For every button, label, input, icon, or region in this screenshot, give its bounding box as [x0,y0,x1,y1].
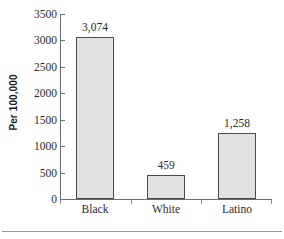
bar [76,37,114,199]
bar-value-label: 3,074 [82,21,108,33]
y-axis-tick-label: 3000 [34,34,57,46]
bottom-divider-rule [2,231,282,232]
bar [218,133,256,199]
x-axis-category-labels: BlackWhiteLatino [60,203,272,221]
x-axis-category-label: Latino [222,203,252,215]
y-axis-tick-mark [61,120,65,121]
y-axis-tick-mark [61,14,65,15]
x-axis-category-label: White [152,203,180,215]
y-axis-tick-mark [61,173,65,174]
y-axis-tick-label: 2500 [34,61,57,73]
bar [147,175,185,199]
y-axis-tick-label: 2000 [34,87,57,99]
x-axis-line [60,199,272,200]
y-axis-tick-mark [61,67,65,68]
plot-area: 3,0744591,258 [60,14,272,200]
y-axis-tick-mark [61,93,65,94]
x-axis-category-label: Black [82,203,109,215]
y-axis-title-label: Per 100,000 [8,74,19,130]
y-axis-tick-label: 3500 [34,8,57,20]
y-axis-tick-label: 500 [40,167,57,179]
bar-chart-figure: Per 100,000 0500100015002000250030003500… [0,0,284,239]
bar-value-label: 1,258 [224,117,250,129]
y-axis-title: Per 100,000 [0,0,26,205]
y-axis-tick-label: 0 [51,193,57,205]
y-axis-tick-label: 1500 [34,114,57,126]
y-axis-tick-labels: 0500100015002000250030003500 [26,8,59,200]
y-axis-tick-label: 1000 [34,140,57,152]
bar-value-label: 459 [157,159,174,171]
y-axis-tick-mark [61,199,65,200]
y-axis-tick-mark [61,40,65,41]
y-axis-tick-mark [61,146,65,147]
